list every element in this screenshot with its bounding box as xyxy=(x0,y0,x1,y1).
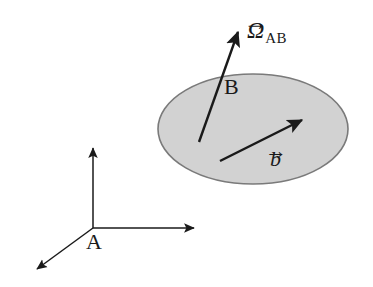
omega-subscript: AB xyxy=(265,31,286,46)
vector-diagram-canvas xyxy=(0,0,373,287)
reference-frame-A xyxy=(37,148,194,269)
frame-origin-label-A: A xyxy=(86,231,102,253)
angular-velocity-vector-label: → Ω AB xyxy=(247,18,286,42)
vector-arrow-accent-icon: → xyxy=(265,140,287,162)
omega-symbol-group: → Ω xyxy=(247,18,264,42)
position-vector-b-label: → b xyxy=(270,148,282,170)
axis-diagonal xyxy=(37,228,93,269)
vector-arrow-accent-icon: → xyxy=(244,10,268,34)
ellipse-body-B xyxy=(158,74,348,184)
b-symbol-group: → b xyxy=(270,148,282,170)
body-label-B: B xyxy=(224,76,239,98)
